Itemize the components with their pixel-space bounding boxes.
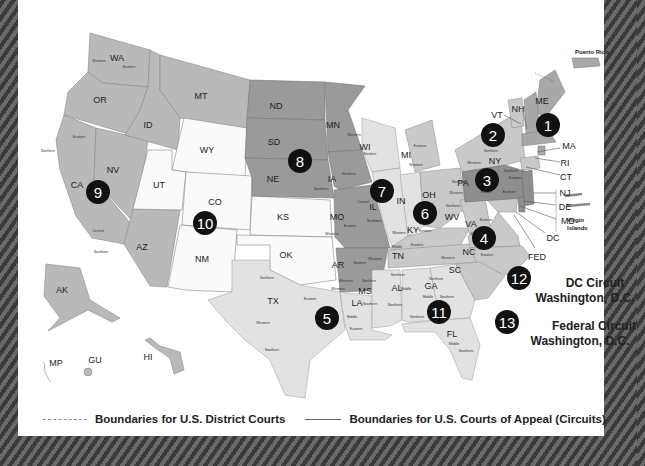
svg-text:Middle: Middle <box>449 342 460 346</box>
svg-text:Northern: Northern <box>260 276 274 280</box>
circuit-badge-4[interactable]: 4 <box>472 226 496 250</box>
label-wa: WA <box>110 53 124 63</box>
svg-text:13: 13 <box>499 314 516 331</box>
label-wv: WV <box>445 212 460 222</box>
svg-text:Eastern: Eastern <box>344 224 356 228</box>
label-tx: TX <box>267 296 279 306</box>
svg-text:Eastern: Eastern <box>350 327 362 331</box>
svg-text:Southern: Southern <box>363 302 378 306</box>
svg-text:Southern: Southern <box>367 219 382 223</box>
label-virgin-islands-2: Islands <box>567 225 588 231</box>
circuit-badge-10[interactable]: 10 <box>193 211 217 235</box>
circuit-badge-9[interactable]: 9 <box>86 180 110 204</box>
label-sd: SD <box>268 137 281 147</box>
svg-text:Western: Western <box>441 256 454 260</box>
svg-text:7: 7 <box>378 183 386 200</box>
svg-text:Southern: Southern <box>504 169 519 173</box>
svg-text:8: 8 <box>296 153 304 170</box>
label-ny: NY <box>489 156 502 166</box>
label-mi: MI <box>401 150 411 160</box>
svg-text:Eastern: Eastern <box>419 229 431 233</box>
svg-text:Southern: Southern <box>459 349 474 353</box>
svg-text:9: 9 <box>94 184 102 201</box>
svg-text:Southern: Southern <box>440 295 455 299</box>
label-ma: MA <box>562 141 576 151</box>
state-ks[interactable] <box>250 196 332 237</box>
label-ks: KS <box>277 212 289 222</box>
label-ak: AK <box>56 285 68 295</box>
svg-text:1: 1 <box>544 117 552 134</box>
label-mo: MO <box>330 212 345 222</box>
map-legend: Boundaries for U.S. District Courts Boun… <box>43 413 606 425</box>
label-vt: VT <box>491 110 503 120</box>
svg-text:11: 11 <box>431 304 447 321</box>
circuit-badge-3[interactable]: 3 <box>475 168 499 192</box>
svg-text:Southern: Southern <box>94 250 109 254</box>
label-sc: SC <box>449 265 462 275</box>
label-nv: NV <box>107 165 120 175</box>
label-ct: CT <box>560 172 572 182</box>
label-ar: AR <box>332 260 345 270</box>
state-nd[interactable] <box>247 80 325 120</box>
svg-text:Northern: Northern <box>362 279 376 283</box>
label-fed: FED <box>528 252 547 262</box>
label-ms: MS <box>358 286 372 296</box>
state-de[interactable] <box>518 196 525 212</box>
svg-text:Eastern: Eastern <box>480 218 492 222</box>
state-me[interactable] <box>536 70 565 118</box>
svg-text:Eastern: Eastern <box>123 65 135 69</box>
label-az: AZ <box>136 242 148 252</box>
label-gu: GU <box>88 355 102 365</box>
label-ky: KY <box>407 225 419 235</box>
circuit-badge-2[interactable]: 2 <box>481 123 505 147</box>
circuit-badge-11[interactable]: 11 <box>427 300 451 324</box>
label-de: DE <box>559 202 572 212</box>
territory-pr[interactable] <box>572 58 600 68</box>
svg-text:Northern: Northern <box>452 180 466 184</box>
svg-text:Northern: Northern <box>410 315 424 319</box>
dc-circuit-location: Washington, D.C. <box>525 291 645 306</box>
svg-text:Eastern: Eastern <box>73 135 85 139</box>
label-nd: ND <box>270 101 283 111</box>
circuit-badge-6[interactable]: 6 <box>413 201 437 225</box>
label-nm: NM <box>195 254 209 264</box>
label-co: CO <box>208 197 222 207</box>
label-nh: NH <box>512 104 525 114</box>
label-hi: HI <box>144 352 153 362</box>
svg-text:3: 3 <box>483 172 491 189</box>
label-ok: OK <box>279 250 292 260</box>
state-ms[interactable] <box>372 270 402 328</box>
svg-text:10: 10 <box>197 215 214 232</box>
circuit-badge-1[interactable]: 1 <box>536 113 560 137</box>
label-virgin-islands-1: Virgin <box>567 217 584 223</box>
circuit-badge-5[interactable]: 5 <box>315 306 339 330</box>
label-va: VA <box>465 219 476 229</box>
circuit-badge-7[interactable]: 7 <box>370 179 394 203</box>
label-mp: MP <box>49 358 63 368</box>
state-sd[interactable] <box>245 118 328 160</box>
label-id: ID <box>144 120 154 130</box>
label-puerto-rico: Puerto Rico <box>575 49 609 55</box>
svg-text:Northern: Northern <box>41 149 55 153</box>
label-in: IN <box>397 196 406 206</box>
legend-circuit: Boundaries for U.S. Courts of Appeal (Ci… <box>349 413 605 425</box>
label-nj: NJ <box>560 188 571 198</box>
svg-text:Western: Western <box>339 279 352 283</box>
svg-text:Western: Western <box>467 161 480 165</box>
svg-text:Western: Western <box>368 257 381 261</box>
svg-text:Middle: Middle <box>401 287 412 291</box>
state-ak[interactable] <box>44 264 120 331</box>
territory-gu[interactable] <box>84 368 92 376</box>
solid-line-icon <box>305 419 341 420</box>
label-wy: WY <box>200 145 215 155</box>
dc-circuit-note: DC Circuit Washington, D.C. <box>525 276 645 306</box>
svg-text:Eastern: Eastern <box>304 297 316 301</box>
svg-text:Northern: Northern <box>446 204 460 208</box>
label-or: OR <box>93 95 107 105</box>
circuit-badge-8[interactable]: 8 <box>288 149 312 173</box>
svg-text:Western: Western <box>331 287 344 291</box>
label-nc: NC <box>463 247 476 257</box>
svg-text:Eastern: Eastern <box>354 261 366 265</box>
svg-text:Western: Western <box>256 321 269 325</box>
label-mt: MT <box>195 91 208 101</box>
